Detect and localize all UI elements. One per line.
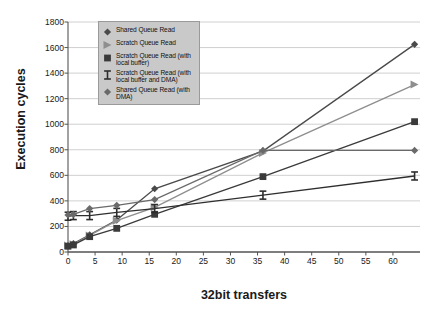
legend-item-label: Scratch Queue Read: [116, 39, 176, 46]
data-point-square: [260, 173, 267, 180]
legend-item[interactable]: Shared Queue Read (with DMA): [102, 86, 196, 101]
chart-container: Execution cycles 02004006008001000120014…: [0, 0, 428, 311]
series-line: [65, 118, 418, 249]
legend-item-label: Scratch Queue Read (with local buffer): [116, 52, 196, 67]
data-point-square: [86, 233, 93, 240]
x-axis-tick-label: 25: [199, 256, 208, 266]
data-point-square: [70, 242, 77, 249]
legend-item-label: Scratch Queue Read (with local buffer an…: [116, 69, 196, 84]
x-axis-tick-label: 10: [117, 256, 126, 266]
legend-marker-square-icon: [102, 53, 113, 63]
y-axis-tick-label: 0: [28, 247, 64, 257]
chart-legend: Shared Queue ReadScratch Queue ReadScrat…: [98, 21, 200, 105]
y-axis-tick-label: 1200: [28, 94, 64, 104]
legend-item-label: Shared Queue Read (with DMA): [116, 86, 196, 101]
x-axis-tick-label: 0: [66, 256, 71, 266]
x-axis-tick-label: 30: [226, 256, 235, 266]
legend-marker-diamond-icon: [102, 87, 113, 97]
y-axis-tick-label: 200: [28, 221, 64, 231]
data-point-square: [104, 55, 111, 62]
legend-item[interactable]: Shared Queue Read: [102, 26, 196, 37]
y-axis-tick-label: 1400: [28, 68, 64, 78]
data-point-ibeam: [104, 71, 111, 79]
y-axis-tick-label: 600: [28, 170, 64, 180]
y-axis-tick-label: 1800: [28, 17, 64, 27]
legend-marker-diamond-icon: [102, 27, 113, 37]
data-point-diamond: [411, 147, 418, 154]
x-axis-tick-label: 35: [253, 256, 262, 266]
x-axis-tick-label: 45: [307, 256, 316, 266]
data-point-square: [113, 225, 120, 232]
data-point-square: [411, 118, 418, 125]
legend-item[interactable]: Scratch Queue Read (with local buffer an…: [102, 69, 196, 84]
y-axis-tick-label: 1600: [28, 43, 64, 53]
x-axis-tick-label: 60: [388, 256, 397, 266]
x-axis-tick-label: 55: [361, 256, 370, 266]
y-axis-tick-labels: 020040060080010001200140016001800: [24, 0, 64, 311]
legend-item-label: Shared Queue Read: [116, 26, 175, 33]
y-axis-tick-label: 800: [28, 145, 64, 155]
x-axis-tick-label: 5: [93, 256, 98, 266]
legend-item[interactable]: Scratch Queue Read: [102, 39, 196, 50]
legend-marker-triangle-icon: [102, 40, 113, 50]
x-axis-tick-label: 15: [144, 256, 153, 266]
data-point-diamond: [104, 28, 111, 35]
data-point-diamond: [104, 88, 111, 95]
x-axis-title: 32bit transfers: [60, 288, 428, 302]
data-point-triangle: [104, 41, 112, 49]
x-axis-tick-label: 20: [172, 256, 181, 266]
legend-marker-ibeam-icon: [102, 70, 113, 80]
legend-item[interactable]: Scratch Queue Read (with local buffer): [102, 52, 196, 67]
x-axis-tick-label: 50: [334, 256, 343, 266]
series-line: [65, 172, 418, 220]
series-line: [64, 81, 419, 250]
y-axis-tick-label: 400: [28, 196, 64, 206]
data-point-triangle: [411, 81, 419, 89]
y-axis-tick-label: 1000: [28, 119, 64, 129]
data-point-diamond: [151, 196, 158, 203]
series-polyline: [68, 85, 415, 246]
x-axis-tick-label: 40: [280, 256, 289, 266]
series-polyline: [68, 176, 415, 216]
